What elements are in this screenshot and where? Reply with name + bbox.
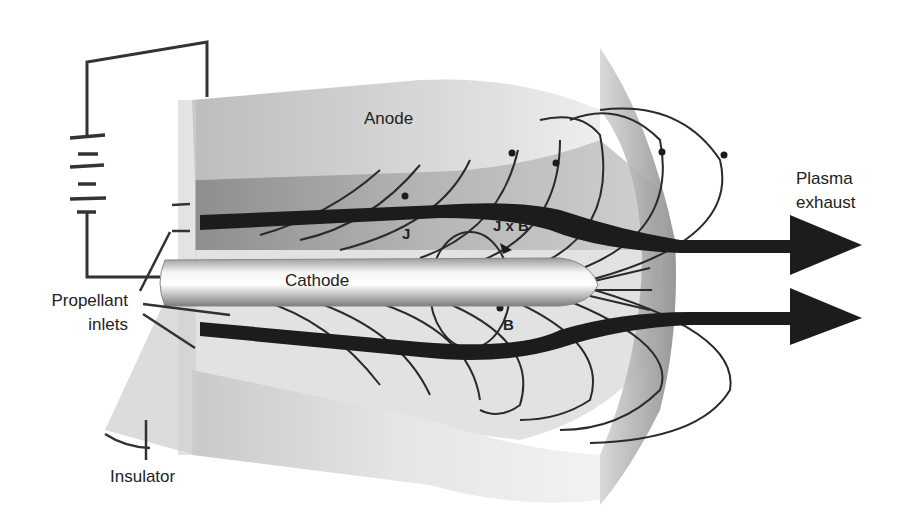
cathode-label: Cathode [285, 270, 349, 291]
mpd-thruster-diagram [0, 0, 898, 527]
cathode [160, 258, 598, 306]
anode-label: Anode [364, 108, 413, 129]
current-density-label: J [402, 223, 410, 244]
magnetic-field-label: B [503, 314, 514, 335]
lorentz-force-label: J x B [493, 215, 529, 236]
plasma-exhaust-label-line1: Plasma [796, 168, 853, 189]
propellant-inlets-label-line1: Propellant [38, 290, 128, 311]
insulator-label: Insulator [110, 466, 175, 487]
plasma-exhaust-label-line2: exhaust [796, 192, 856, 213]
battery-icon [70, 135, 106, 212]
propellant-inlets-label-line2: inlets [38, 314, 128, 335]
